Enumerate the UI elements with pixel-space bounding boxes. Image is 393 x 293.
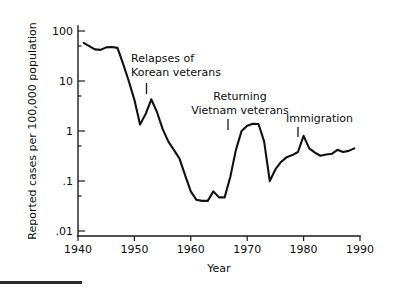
y-tick-label-1: 1 — [66, 125, 73, 138]
x-axis-ticks — [78, 236, 360, 241]
x-axis-title: Year — [206, 262, 231, 275]
y-tick-label-10: 10 — [59, 75, 73, 88]
annotation-immigration-label: Immigration — [286, 112, 353, 125]
line-chart: 100 10 1 .1 .01 1940 1950 1960 1970 1980… — [0, 0, 393, 293]
y-tick-label-100: 100 — [52, 25, 73, 38]
annotation-korean-veterans-line2: Korean veterans — [131, 66, 221, 79]
x-tick-label-1950: 1950 — [120, 243, 148, 256]
annotation-immigration: Immigration — [286, 112, 353, 137]
x-tick-label-1980: 1980 — [290, 243, 318, 256]
annotation-korean-veterans-line1: Relapses of — [131, 52, 195, 65]
x-tick-label-1990: 1990 — [346, 243, 374, 256]
annotation-vietnam-veterans-line1: Returning — [213, 90, 267, 103]
annotation-vietnam-veterans: Returning Vietnam veterans — [191, 90, 289, 130]
chart-figure: 100 10 1 .1 .01 1940 1950 1960 1970 1980… — [0, 0, 393, 293]
annotation-korean-veterans: Relapses of Korean veterans — [131, 52, 221, 94]
x-tick-label-1970: 1970 — [233, 243, 261, 256]
y-axis-title: Reported cases per 100,000 population — [26, 22, 39, 240]
bottom-rule-divider — [0, 281, 82, 284]
y-axis-ticks — [78, 31, 85, 231]
annotation-vietnam-veterans-line2: Vietnam veterans — [191, 104, 289, 117]
x-tick-label-1940: 1940 — [64, 243, 92, 256]
y-tick-label-0.1: .1 — [63, 175, 74, 188]
y-tick-label-0.01: .01 — [56, 225, 74, 238]
x-tick-label-1960: 1960 — [177, 243, 205, 256]
